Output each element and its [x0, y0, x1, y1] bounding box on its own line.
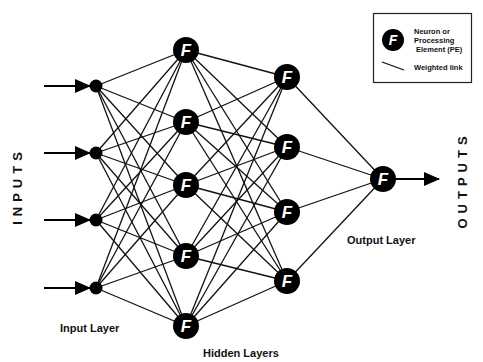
legend-neuron-glyph: F — [389, 32, 398, 48]
svg-text:F: F — [181, 176, 192, 195]
input-node — [90, 147, 103, 160]
input-layer-label: Input Layer — [60, 322, 120, 334]
legend-neuron-line1: Neuron or — [414, 27, 450, 36]
hidden2-neuron: F — [274, 64, 300, 90]
outputs-label: OUTPUTS — [455, 131, 470, 228]
legend-neuron-line2: Processing — [414, 36, 455, 45]
weighted-link — [96, 86, 186, 122]
weighted-links — [96, 50, 383, 326]
weighted-link — [186, 185, 287, 281]
weighted-link — [186, 122, 287, 147]
svg-text:F: F — [282, 68, 293, 87]
legend-link-label: Weighted link — [414, 63, 463, 72]
input-node — [90, 80, 103, 93]
svg-text:F: F — [282, 272, 293, 291]
svg-text:F: F — [282, 203, 293, 222]
svg-text:F: F — [181, 41, 192, 60]
hidden1-neuron: F — [173, 243, 199, 269]
svg-text:F: F — [181, 113, 192, 132]
svg-text:F: F — [181, 317, 192, 336]
input-node — [90, 214, 103, 227]
hidden1-neuron: F — [173, 313, 199, 339]
hidden-layers-label: Hidden Layers — [203, 347, 279, 359]
weighted-link — [287, 179, 383, 212]
legend-neuron-line3: Element (PE) — [416, 45, 463, 54]
input-node — [90, 282, 103, 295]
weighted-link — [96, 153, 186, 326]
weighted-link — [186, 50, 287, 147]
svg-text:F: F — [378, 170, 389, 189]
weighted-link — [96, 185, 186, 220]
svg-text:F: F — [181, 247, 192, 266]
legend: F Neuron or Processing Element (PE) Weig… — [374, 14, 472, 83]
weighted-link — [287, 77, 383, 179]
neurons: FFFFFFFFFF — [90, 37, 397, 339]
svg-text:F: F — [282, 138, 293, 157]
weighted-link — [186, 147, 287, 326]
weighted-link — [96, 50, 186, 220]
inputs-label: INPUTS — [10, 147, 25, 225]
hidden2-neuron: F — [274, 199, 300, 225]
weighted-link — [287, 179, 383, 281]
weighted-link — [96, 288, 186, 326]
neural-network-diagram: FFFFFFFFFF INPUTS OUTPUTS Input Layer Hi… — [0, 0, 483, 362]
hidden1-neuron: F — [173, 109, 199, 135]
hidden1-neuron: F — [173, 172, 199, 198]
weighted-link — [186, 212, 287, 256]
output-layer-label: Output Layer — [347, 234, 416, 246]
weighted-link — [186, 77, 287, 185]
hidden1-neuron: F — [173, 37, 199, 63]
weighted-link — [96, 50, 186, 86]
hidden2-neuron: F — [274, 268, 300, 294]
hidden2-neuron: F — [274, 134, 300, 160]
output-neuron: F — [370, 166, 396, 192]
weighted-link — [186, 50, 287, 77]
weighted-link — [186, 77, 287, 326]
